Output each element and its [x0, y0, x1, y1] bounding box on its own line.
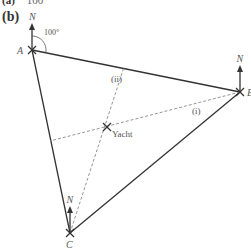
- arrowhead-icon: [237, 65, 243, 72]
- north-arrow-a: N: [28, 11, 37, 50]
- north-label-a: N: [28, 11, 37, 22]
- yacht-label: Yacht: [112, 129, 133, 139]
- dashed-line-ii: [70, 67, 124, 233]
- line-label-ii: (ii): [111, 74, 122, 84]
- arrowhead-icon: [29, 23, 35, 30]
- line-label-i: (i): [192, 106, 201, 116]
- point-label-b: B: [247, 87, 251, 98]
- arrowhead-icon: [67, 206, 73, 213]
- dashed-line-i: [50, 92, 240, 141]
- bearing-diagram: N N N 100° A B C Yacht (ii) (i): [0, 0, 251, 249]
- side-bc: [70, 92, 240, 233]
- north-arrow-b: N: [236, 53, 245, 92]
- side-ca: [32, 50, 70, 233]
- point-label-c: C: [66, 239, 73, 249]
- north-label-c: N: [66, 194, 75, 205]
- north-arrow-c: N: [66, 194, 75, 233]
- north-label-b: N: [236, 53, 245, 64]
- bearing-label: 100°: [44, 28, 59, 37]
- point-label-a: A: [16, 45, 24, 56]
- side-ab: [32, 50, 240, 92]
